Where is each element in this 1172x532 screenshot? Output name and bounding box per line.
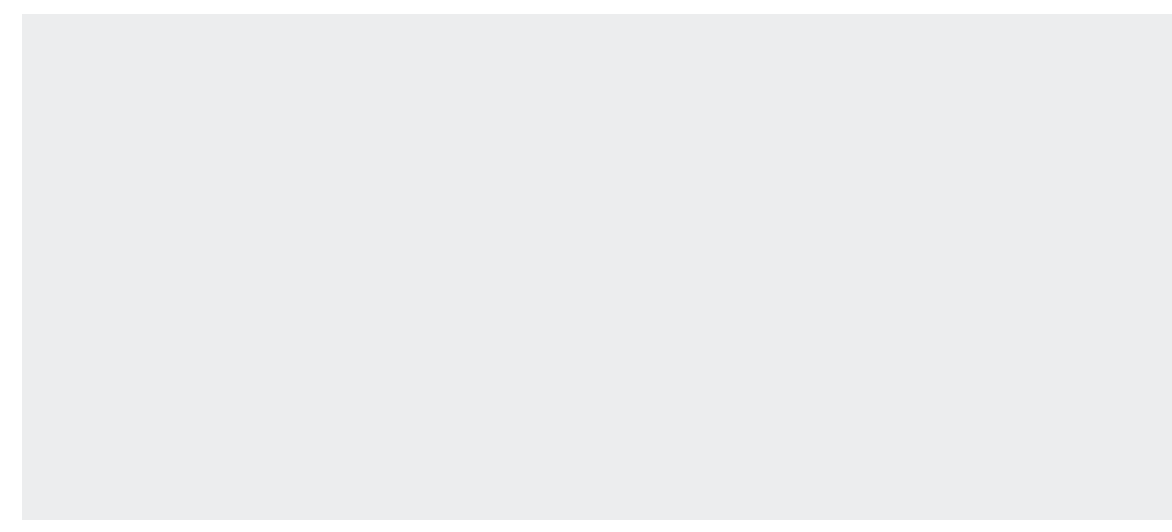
chart-figure: 05001,0001,5002,0002,5003,0003,5004,000 …	[0, 0, 1172, 532]
chart-panel	[22, 14, 1172, 520]
